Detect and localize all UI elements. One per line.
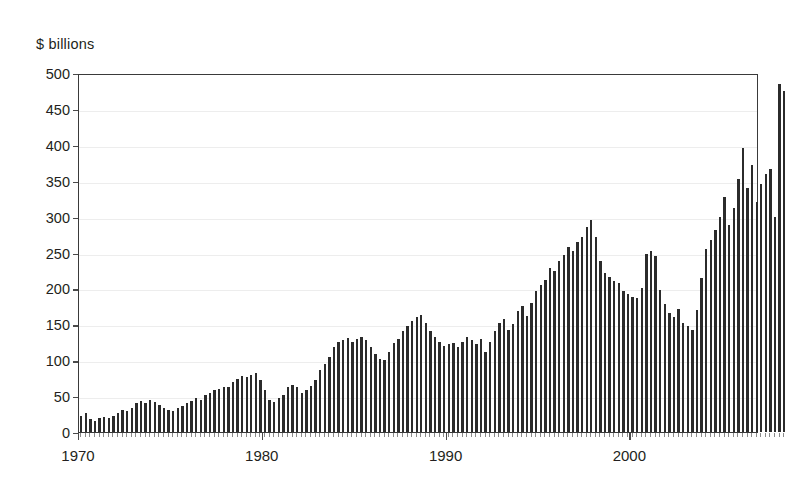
- x-axis-minor-tick: [466, 433, 467, 437]
- bar: [443, 346, 445, 432]
- bar: [691, 330, 693, 432]
- x-axis-minor-tick: [526, 433, 527, 437]
- x-axis-tick-label: 2000: [613, 447, 646, 464]
- bar: [388, 352, 390, 432]
- x-axis-minor-tick: [691, 433, 692, 437]
- x-axis-minor-tick: [370, 433, 371, 437]
- bar: [636, 298, 638, 432]
- bar: [714, 230, 716, 432]
- x-axis-minor-tick: [204, 433, 205, 437]
- x-axis-minor-tick: [361, 433, 362, 437]
- x-axis-minor-tick: [402, 433, 403, 437]
- bar: [223, 387, 225, 432]
- bar: [112, 416, 114, 432]
- x-axis-minor-tick: [517, 433, 518, 437]
- x-axis-tick-label: 1990: [429, 447, 462, 464]
- bar: [328, 357, 330, 432]
- x-axis-minor-tick: [765, 433, 766, 437]
- x-axis-minor-tick: [310, 433, 311, 437]
- bar: [85, 413, 87, 432]
- bar: [406, 326, 408, 432]
- bar: [719, 217, 721, 432]
- bar: [783, 91, 785, 432]
- bar: [333, 347, 335, 432]
- y-axis-tick-label: 100: [46, 353, 70, 369]
- bar: [305, 390, 307, 432]
- bar: [379, 359, 381, 432]
- y-axis-tick-label: 150: [46, 317, 70, 333]
- bar: [177, 408, 179, 432]
- bar: [370, 347, 372, 432]
- x-axis-minor-tick: [558, 433, 559, 437]
- x-axis-minor-tick: [384, 433, 385, 437]
- x-axis-minor-tick: [618, 433, 619, 437]
- x-axis-minor-tick: [531, 433, 532, 437]
- bar: [342, 340, 344, 432]
- bar: [581, 237, 583, 432]
- x-axis-minor-tick: [609, 433, 610, 437]
- x-axis-minor-tick: [269, 433, 270, 437]
- bar: [778, 84, 780, 432]
- bar: [480, 339, 482, 432]
- x-axis-minor-tick: [319, 433, 320, 437]
- bar: [590, 220, 592, 432]
- bar: [337, 342, 339, 432]
- x-axis-minor-tick: [301, 433, 302, 437]
- x-axis-minor-tick: [728, 433, 729, 437]
- y-axis-tick-label: 500: [46, 66, 70, 82]
- x-axis-tick-label: 1970: [61, 447, 94, 464]
- bar: [264, 390, 266, 432]
- bar: [466, 337, 468, 432]
- x-axis-minor-tick: [172, 433, 173, 437]
- x-axis-minor-tick: [760, 433, 761, 437]
- bar: [654, 256, 656, 432]
- x-axis-minor-tick: [475, 433, 476, 437]
- x-axis-minor-tick: [255, 433, 256, 437]
- x-axis-minor-tick: [342, 433, 343, 437]
- x-axis-minor-tick: [457, 433, 458, 437]
- bar: [673, 317, 675, 432]
- bar: [471, 340, 473, 432]
- bar: [696, 310, 698, 432]
- bar: [498, 323, 500, 432]
- x-axis-minor-tick: [724, 433, 725, 437]
- bar: [760, 184, 762, 432]
- x-axis-minor-tick: [503, 433, 504, 437]
- x-axis-minor-tick: [374, 433, 375, 437]
- x-axis-minor-tick: [365, 433, 366, 437]
- x-axis-minor-tick: [292, 433, 293, 437]
- x-axis-minor-tick: [563, 433, 564, 437]
- x-axis-minor-tick: [498, 433, 499, 437]
- bar: [144, 403, 146, 432]
- bar: [310, 386, 312, 432]
- y-axis-tick-label: 0: [62, 425, 70, 441]
- x-axis-minor-tick: [544, 433, 545, 437]
- bar: [595, 237, 597, 432]
- x-axis-minor-tick: [287, 433, 288, 437]
- bar: [154, 402, 156, 432]
- x-axis-minor-tick: [305, 433, 306, 437]
- x-axis-minor-tick: [195, 433, 196, 437]
- bar: [526, 316, 528, 432]
- bar: [641, 288, 643, 432]
- x-axis-minor-tick: [687, 433, 688, 437]
- bar: [319, 370, 321, 432]
- x-axis-minor-tick: [131, 433, 132, 437]
- x-axis-minor-tick: [232, 433, 233, 437]
- x-axis-minor-tick: [462, 433, 463, 437]
- bar: [613, 281, 615, 432]
- x-axis-minor-tick: [554, 433, 555, 437]
- bar: [751, 165, 753, 432]
- x-axis-minor-tick: [659, 433, 660, 437]
- x-axis-minor-tick: [223, 433, 224, 437]
- bar: [347, 338, 349, 432]
- bar: [746, 188, 748, 432]
- bar: [278, 398, 280, 432]
- y-axis-tick-label: 200: [46, 281, 70, 297]
- bar: [126, 411, 128, 432]
- x-axis-minor-tick: [99, 433, 100, 437]
- x-axis-minor-tick: [108, 433, 109, 437]
- x-axis-minor-tick: [264, 433, 265, 437]
- bar: [563, 255, 565, 432]
- x-axis-minor-tick: [241, 433, 242, 437]
